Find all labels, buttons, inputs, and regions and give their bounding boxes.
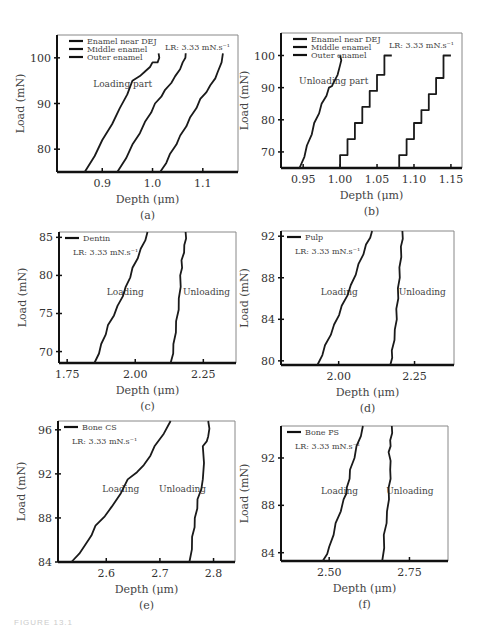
y-tick-label: 90 [261, 82, 275, 95]
y-axis-label: Load (mN) [238, 464, 251, 524]
chart-panel-d: 808488922.002.25Depth (μm)Load (mN)(d)Pu… [238, 230, 454, 415]
data-series-line [300, 56, 342, 169]
curve-annotation: Loading [321, 287, 358, 297]
y-tick-label: 92 [261, 452, 275, 465]
legend-label: Dentin [83, 234, 110, 243]
legend-label: Bone PS [305, 428, 339, 437]
y-tick-label: 92 [38, 468, 52, 481]
y-axis-label: Load (mN) [16, 268, 29, 328]
x-tick-label: 0.95 [291, 173, 316, 186]
data-series-line [171, 232, 187, 363]
loading-rate-label: LR: 3.33 mN.s⁻¹ [295, 442, 360, 451]
y-tick-label: 88 [261, 499, 275, 512]
x-tick-label: 0.9 [94, 177, 112, 190]
curve-annotation: Unloading [399, 287, 446, 297]
chart-panel-b: 7080901000.951.001.051.101.15Depth (μm)L… [238, 33, 463, 218]
y-tick-label: 88 [261, 272, 275, 285]
chart-panel-e: 848892962.62.72.8Depth (μm)Load (mN)(e)B… [15, 421, 235, 612]
x-tick-label: 2.6 [98, 567, 116, 580]
x-axis-label: Depth (μm) [116, 193, 180, 206]
x-axis-label: Depth (μm) [116, 384, 180, 397]
y-axis-label: Load (mN) [238, 71, 251, 131]
data-series-line [340, 56, 392, 169]
x-tick-label: 2.25 [402, 370, 427, 383]
x-axis-label: Depth (μm) [340, 189, 404, 202]
figure-caption: FIGURE 13.1 [14, 618, 73, 627]
legend-label: Bone CS [82, 423, 117, 432]
y-axis-label: Load (mN) [238, 268, 251, 328]
x-tick-label: 1.05 [365, 173, 390, 186]
panel-label: (e) [139, 599, 154, 612]
chart-panel-c: 707580851.752.002.25Depth (μm)Load (mN)(… [16, 231, 236, 413]
data-series-line [85, 53, 160, 172]
y-tick-label: 88 [38, 512, 52, 525]
y-tick-label: 80 [261, 114, 275, 127]
y-tick-label: 84 [261, 313, 275, 326]
curve-annotation: Unloading [386, 486, 433, 496]
x-tick-label: 1.10 [402, 173, 427, 186]
x-tick-label: 1.00 [328, 173, 353, 186]
panel-label: (a) [140, 209, 155, 222]
x-tick-label: 1.1 [194, 177, 212, 190]
panel-label: (d) [360, 402, 376, 415]
y-tick-label: 84 [38, 556, 52, 569]
x-tick-label: 2.50 [317, 566, 342, 579]
curve-annotation: Loading part [93, 79, 152, 89]
loading-rate-label: LR: 3.33 mN.s⁻¹ [295, 247, 360, 256]
x-tick-label: 2.75 [397, 566, 422, 579]
y-tick-label: 70 [39, 346, 53, 359]
x-tick-label: 1.0 [144, 177, 162, 190]
data-series-line [160, 53, 223, 172]
chart-panel-f: 8488922.502.75Depth (μm)Load (mN)(f)Bone… [238, 426, 448, 611]
curve-annotation: Unloading [159, 484, 206, 494]
loading-rate-label: LR: 3.33 mN.s⁻¹ [389, 41, 454, 50]
legend-label: Outer enamel [87, 53, 143, 62]
curve-annotation: Unloading [183, 287, 230, 297]
panel-label: (c) [140, 400, 155, 413]
loading-rate-label: LR: 3.33 mN.s⁻¹ [72, 437, 137, 446]
x-tick-label: 2.8 [205, 567, 223, 580]
y-tick-label: 85 [39, 231, 53, 244]
x-axis-label: Depth (μm) [115, 583, 179, 596]
y-tick-label: 70 [261, 146, 275, 159]
y-axis-label: Load (mN) [15, 462, 28, 522]
panel-label: (b) [364, 205, 380, 218]
y-tick-label: 75 [39, 307, 53, 320]
data-series-line [117, 53, 185, 172]
curve-annotation: Loading [321, 486, 358, 496]
x-tick-label: 1.15 [439, 173, 464, 186]
x-tick-label: 2.00 [123, 368, 148, 381]
y-tick-label: 80 [261, 355, 275, 368]
legend-label: Pulp [305, 233, 323, 242]
y-tick-label: 96 [38, 424, 52, 437]
y-tick-label: 100 [254, 50, 275, 63]
figure-canvas: 80901000.91.01.1Depth (μm)Load (mN)(a)En… [0, 0, 478, 628]
y-tick-label: 80 [39, 269, 53, 282]
loading-rate-label: LR: 3.33 mN.s⁻¹ [165, 43, 230, 52]
x-tick-label: 1.75 [55, 368, 80, 381]
y-tick-label: 80 [37, 143, 51, 156]
x-axis-label: Depth (μm) [336, 386, 400, 399]
x-axis-label: Depth (μm) [333, 582, 397, 595]
data-series-line [390, 231, 403, 365]
y-tick-label: 84 [261, 547, 275, 560]
x-tick-label: 2.25 [191, 368, 216, 381]
loading-rate-label: LR: 3.33 mN.s⁻¹ [73, 248, 138, 257]
x-tick-label: 2.7 [151, 567, 169, 580]
data-series-line [399, 56, 451, 169]
y-tick-label: 90 [37, 98, 51, 111]
panel-label: (f) [358, 598, 371, 611]
legend-label: Outer enamel [311, 51, 367, 60]
y-tick-label: 92 [261, 230, 275, 243]
y-axis-label: Load (mN) [14, 74, 27, 134]
x-tick-label: 2.00 [326, 370, 351, 383]
chart-panel-a: 80901000.91.01.1Depth (μm)Load (mN)(a)En… [14, 35, 238, 222]
y-tick-label: 100 [30, 52, 51, 65]
